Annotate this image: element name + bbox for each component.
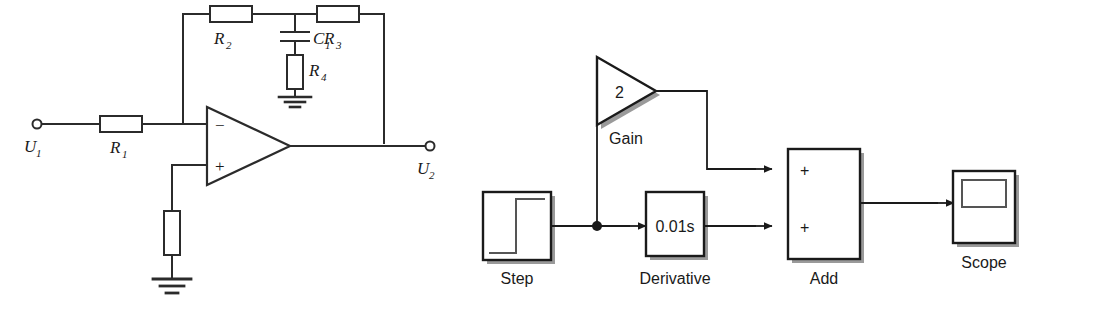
resistor-R3-body — [317, 6, 359, 22]
label-R2-sub: 2 — [226, 39, 232, 51]
simulink-panel: Step 2 Gain 0.01s — [460, 0, 1110, 312]
sum-block-icon[interactable] — [788, 149, 860, 259]
op-amp-circuit-panel: − + U 1 U 2 R 1 R 2 R 3 C — [0, 0, 460, 312]
derivative-block-value: 0.01s — [655, 218, 694, 235]
add-block-label: Add — [810, 270, 838, 287]
circuit-svg: − + U 1 U 2 R 1 R 2 R 3 C — [0, 0, 460, 312]
scope-block[interactable] — [953, 171, 1015, 243]
resistor-R2-body — [210, 6, 252, 22]
scope-screen — [962, 180, 1006, 207]
label-U1-sub: 1 — [36, 147, 42, 159]
figure-root: − + U 1 U 2 R 1 R 2 R 3 C — [0, 0, 1110, 312]
step-block[interactable] — [483, 192, 551, 260]
gain-block[interactable]: 2 — [597, 57, 656, 125]
label-R1-sub: 1 — [122, 148, 128, 160]
wire-gain-to-add — [656, 91, 756, 169]
step-block-label: Step — [501, 270, 534, 287]
input-terminal-U1 — [33, 120, 42, 129]
label-R4-sub: 4 — [321, 71, 327, 83]
add-block[interactable]: + + — [788, 149, 860, 259]
label-R3-sub: 3 — [335, 39, 342, 51]
simulink-svg: Step 2 Gain 0.01s — [460, 0, 1110, 312]
triangle-gain-icon[interactable] — [597, 57, 656, 125]
derivative-block[interactable]: 0.01s — [646, 192, 704, 256]
label-R4: R — [308, 61, 320, 80]
opamp-noninverting-sign: + — [215, 157, 225, 176]
resistor-R1-body — [100, 116, 142, 132]
label-R1: R — [109, 138, 121, 157]
add-port-1-sign: + — [800, 162, 809, 179]
scope-block-label: Scope — [961, 254, 1006, 271]
output-terminal-U2 — [426, 142, 435, 151]
label-C1: C — [313, 29, 325, 48]
label-U2-sub: 2 — [429, 169, 435, 181]
label-R2: R — [213, 29, 225, 48]
resistor-R4-body — [287, 55, 303, 89]
derivative-block-label: Derivative — [639, 270, 710, 287]
gain-block-label: Gain — [609, 130, 643, 147]
add-port-2-sign: + — [800, 219, 809, 236]
label-C1-sub: 1 — [325, 39, 331, 51]
resistor-bottom-body — [164, 211, 180, 255]
gain-block-value: 2 — [615, 84, 624, 101]
opamp-inverting-sign: − — [215, 116, 225, 135]
block-shadows — [487, 61, 1019, 264]
